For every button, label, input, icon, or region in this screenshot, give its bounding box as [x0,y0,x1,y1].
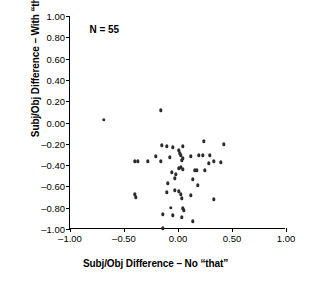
data-point [189,194,192,197]
data-point [169,206,172,209]
data-point [181,168,184,171]
data-point [165,144,168,147]
data-point [134,196,137,199]
y-axis-tick-label: 0.60 [27,53,65,64]
y-axis-tick-label: 0.20 [27,96,65,107]
data-point [195,169,198,172]
data-point [197,153,200,156]
data-point [196,184,199,187]
y-axis-tick-mark [66,123,70,124]
data-point [219,161,222,164]
data-point [166,182,169,185]
data-point [161,213,164,216]
y-axis-tick-mark [66,208,70,209]
data-point [170,171,173,174]
data-point [165,191,168,194]
x-axis-tick-label: –0.50 [112,233,136,244]
data-point [189,154,192,157]
data-point [222,142,225,145]
y-axis-tick-mark [66,144,70,145]
y-axis-tick-label: 0.80 [27,32,65,43]
data-point [136,159,139,162]
x-axis-tick-mark [286,228,287,232]
x-axis-tick-label: –1.00 [58,233,82,244]
y-axis-tick-label: 0.00 [27,117,65,128]
data-point [182,209,185,212]
data-point [180,197,183,200]
y-axis-tick-label: –0.40 [27,160,65,171]
y-axis-tick-mark [66,165,70,166]
sample-size-annotation: N = 55 [89,24,119,35]
y-axis-tick-label: 1.00 [27,11,65,22]
data-point [202,139,205,142]
data-point [201,153,204,156]
y-axis-tick-mark [66,101,70,102]
data-point [208,153,211,156]
x-axis-tick-mark [178,228,179,232]
x-axis-tick-label: 1.00 [277,233,296,244]
y-axis-tick-mark [66,59,70,60]
x-axis-tick-mark [232,228,233,232]
y-axis-tick-label: –0.60 [27,181,65,192]
data-point [173,177,176,180]
data-point [191,220,194,223]
y-axis-tick-label: –0.80 [27,202,65,213]
x-axis-tick-mark [124,228,125,232]
y-axis-tick-label: –0.20 [27,138,65,149]
data-point [154,154,157,157]
data-point [159,159,162,162]
data-point [212,159,215,162]
data-point [191,178,194,181]
data-point [146,159,149,162]
data-point [181,144,184,147]
data-point [180,216,183,219]
data-point [171,146,174,149]
x-axis-tick-label: 0.50 [223,233,242,244]
y-axis-tick-mark [66,37,70,38]
data-point [168,155,171,158]
data-point [173,189,176,192]
figure-caption-partial [0,272,311,283]
data-point [203,169,206,172]
y-axis-tick-mark [66,80,70,81]
y-axis-tick-mark [66,16,70,17]
data-point [179,193,182,196]
x-axis-tick-mark [70,228,71,232]
x-axis-tick-label: 0.00 [169,233,188,244]
data-point [161,227,164,230]
data-point [207,161,210,164]
data-point [159,109,162,112]
data-point [174,173,177,176]
data-point [160,143,163,146]
x-axis-label: Subj/Obj Difference – No “that” [0,258,311,269]
scatter-plot-figure: Subj/Obj Difference – With “that” 1.000.… [0,0,311,283]
data-point [171,214,174,217]
data-point [102,118,105,121]
plot-area: 1.000.800.600.400.200.00–0.20–0.40–0.60–… [69,16,285,229]
y-axis-tick-label: 0.40 [27,74,65,85]
y-axis-tick-mark [66,186,70,187]
data-point [212,198,215,201]
data-point [180,158,183,161]
